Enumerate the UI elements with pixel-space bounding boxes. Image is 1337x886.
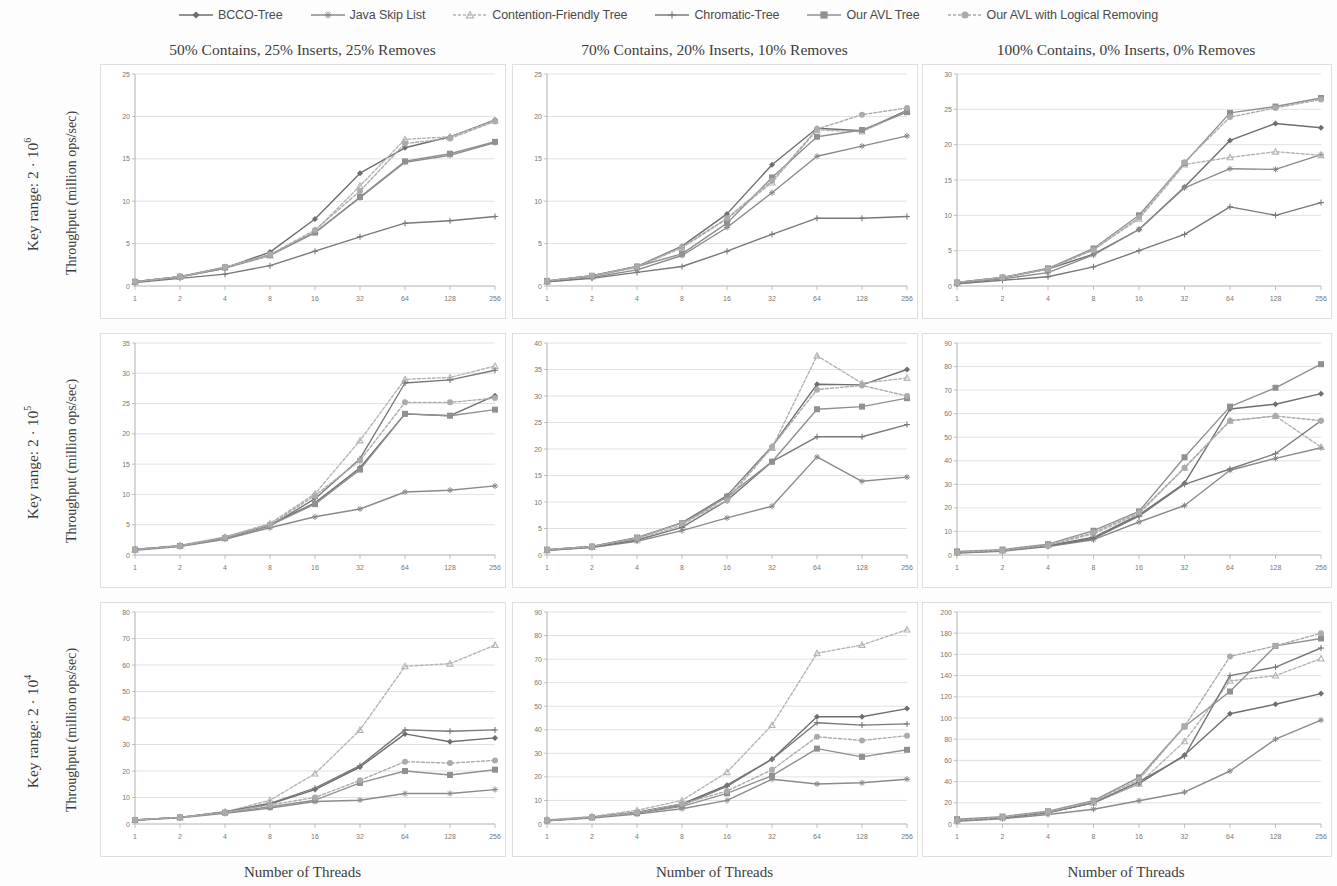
svg-text:40: 40 (944, 457, 952, 464)
svg-text:0: 0 (538, 552, 542, 559)
svg-text:40: 40 (534, 726, 542, 733)
svg-text:128: 128 (856, 833, 868, 840)
svg-text:60: 60 (944, 410, 952, 417)
svg-text:32: 32 (1181, 833, 1189, 840)
svg-text:32: 32 (1181, 564, 1189, 571)
svg-text:1: 1 (545, 295, 549, 302)
svg-text:90: 90 (944, 340, 952, 347)
svg-text:64: 64 (813, 833, 821, 840)
svg-text:128: 128 (856, 295, 868, 302)
svg-text:8: 8 (1092, 833, 1096, 840)
legend-item-3[interactable]: Chromatic-Tree (655, 8, 779, 22)
svg-text:128: 128 (444, 833, 456, 840)
legend-item-label: Java Skip List (350, 8, 426, 22)
series-line (954, 96, 1324, 285)
series-line (544, 395, 910, 553)
svg-text:256: 256 (489, 295, 501, 302)
svg-text:160: 160 (940, 651, 952, 658)
svg-text:32: 32 (768, 295, 776, 302)
svg-text:0: 0 (948, 552, 952, 559)
svg-text:140: 140 (940, 672, 952, 679)
svg-text:5: 5 (126, 240, 130, 247)
legend-item-4[interactable]: Our AVL Tree (807, 8, 919, 22)
svg-text:5: 5 (538, 240, 542, 247)
series-line (132, 395, 498, 552)
svg-text:35: 35 (122, 340, 130, 347)
series-line (132, 140, 498, 285)
svg-text:15: 15 (944, 177, 952, 184)
series-line (544, 133, 910, 285)
svg-text:10: 10 (534, 797, 542, 804)
svg-text:4: 4 (223, 295, 227, 302)
svg-text:64: 64 (401, 564, 409, 571)
svg-text:256: 256 (1315, 833, 1327, 840)
diamond-marker (179, 9, 213, 21)
svg-text:30: 30 (534, 750, 542, 757)
svg-text:16: 16 (723, 295, 731, 302)
series-line (544, 353, 910, 553)
svg-text:35: 35 (534, 366, 542, 373)
svg-text:10: 10 (944, 528, 952, 535)
svg-text:50: 50 (944, 434, 952, 441)
svg-text:2: 2 (590, 295, 594, 302)
svg-text:256: 256 (901, 564, 913, 571)
svg-text:64: 64 (401, 295, 409, 302)
svg-text:60: 60 (534, 679, 542, 686)
svg-text:30: 30 (122, 370, 130, 377)
chart-panel-r3c2: 01020304050607080901248163264128256 (512, 602, 918, 857)
svg-text:1: 1 (955, 564, 959, 571)
legend-item-2[interactable]: Contention-Friendly Tree (453, 8, 627, 22)
legend-item-0[interactable]: BCCO-Tree (179, 8, 283, 22)
series-line (954, 691, 1324, 824)
svg-text:8: 8 (680, 833, 684, 840)
chart-svg-r3c2: 01020304050607080901248163264128256 (513, 603, 919, 858)
chart-panel-r2c3: 01020304050607080901248163264128256 (922, 333, 1332, 588)
svg-text:2: 2 (590, 833, 594, 840)
svg-text:1: 1 (955, 295, 959, 302)
svg-text:64: 64 (813, 564, 821, 571)
series-line (544, 108, 910, 284)
chart-svg-r3c1: 010203040506070801248163264128256 (101, 603, 507, 858)
legend-item-label: Chromatic-Tree (694, 8, 779, 22)
svg-text:8: 8 (1092, 295, 1096, 302)
svg-text:256: 256 (489, 564, 501, 571)
triangle-marker (453, 9, 487, 21)
svg-text:30: 30 (122, 741, 130, 748)
svg-text:8: 8 (268, 833, 272, 840)
svg-text:1: 1 (955, 833, 959, 840)
legend-item-label: Contention-Friendly Tree (492, 8, 627, 22)
svg-text:15: 15 (122, 155, 130, 162)
series-line (544, 367, 910, 553)
series-line (954, 445, 1324, 556)
column-title-2: 100% Contains, 0% Inserts, 0% Removes (922, 41, 1330, 61)
chart-svg-r1c2: 05101520251248163264128256 (513, 65, 919, 320)
chart-panel-r1c3: 0510152025301248163264128256 (922, 64, 1332, 319)
svg-text:0: 0 (538, 283, 542, 290)
svg-text:4: 4 (635, 564, 639, 571)
series-line (132, 393, 498, 553)
series-line (132, 139, 498, 285)
svg-text:2: 2 (1001, 295, 1005, 302)
svg-text:4: 4 (223, 833, 227, 840)
svg-text:256: 256 (1315, 564, 1327, 571)
star-marker (311, 9, 345, 21)
svg-text:30: 30 (944, 71, 952, 78)
chart-panel-r1c1: 05101520251248163264128256 (100, 64, 506, 319)
svg-text:64: 64 (1226, 564, 1234, 571)
svg-text:1: 1 (545, 564, 549, 571)
svg-text:1: 1 (545, 833, 549, 840)
svg-text:4: 4 (223, 564, 227, 571)
plus-marker (655, 9, 689, 21)
legend-item-1[interactable]: Java Skip List (311, 8, 426, 22)
svg-text:16: 16 (1135, 833, 1143, 840)
svg-text:5: 5 (538, 525, 542, 532)
svg-text:2: 2 (590, 564, 594, 571)
svg-text:30: 30 (944, 481, 952, 488)
series-line (954, 120, 1324, 285)
svg-text:50: 50 (122, 688, 130, 695)
svg-text:5: 5 (948, 247, 952, 254)
svg-text:80: 80 (944, 736, 952, 743)
svg-text:16: 16 (311, 833, 319, 840)
svg-text:64: 64 (813, 295, 821, 302)
legend-item-5[interactable]: Our AVL with Logical Removing (948, 8, 1159, 22)
